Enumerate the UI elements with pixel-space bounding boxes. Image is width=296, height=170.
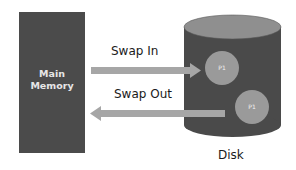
swap-in-label: Swap In — [111, 44, 158, 58]
process-circle-upper: P1 — [205, 51, 239, 85]
disk-label: Disk — [218, 148, 244, 162]
process-label-lower: P1 — [248, 103, 256, 110]
swap-out-label: Swap Out — [114, 87, 172, 101]
process-label-upper: P1 — [218, 64, 226, 71]
process-circle-lower: P1 — [235, 90, 269, 124]
diagram-canvas: P1 P1 — [0, 0, 296, 170]
